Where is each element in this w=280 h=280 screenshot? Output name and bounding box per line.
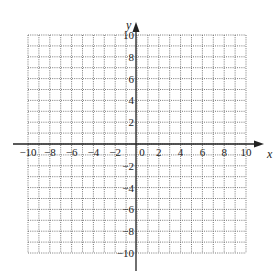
y-tick-label: −10 (117, 247, 135, 259)
y-tick-label: −6 (122, 203, 134, 215)
y-tick-label: −4 (122, 182, 134, 194)
x-tick-label: 6 (200, 146, 206, 158)
coordinate-plane: −10−8−6−4−20246810 108642−2−4−6−8−10 x y (0, 0, 280, 280)
x-axis-arrow-icon (254, 141, 264, 148)
x-tick-label: −4 (88, 146, 100, 158)
x-tick-label: 4 (178, 146, 184, 158)
x-tick-label: −10 (19, 146, 37, 158)
y-tick-label: 6 (129, 73, 135, 85)
y-tick-label: −2 (122, 160, 134, 172)
x-tick-label: 2 (156, 146, 162, 158)
x-tick-label: −8 (44, 146, 56, 158)
y-tick-label: −8 (122, 225, 134, 237)
x-axis-label: x (266, 147, 273, 161)
x-tick-label: 10 (241, 146, 253, 158)
y-tick-label: 4 (129, 94, 135, 106)
y-tick-label: 2 (129, 116, 135, 128)
y-tick-label: 8 (129, 51, 135, 63)
x-tick-label: −2 (109, 146, 121, 158)
x-tick-label: −6 (66, 146, 78, 158)
x-tick-label: 0 (139, 146, 145, 158)
y-axis-label: y (125, 18, 132, 32)
x-tick-label: 8 (221, 146, 227, 158)
